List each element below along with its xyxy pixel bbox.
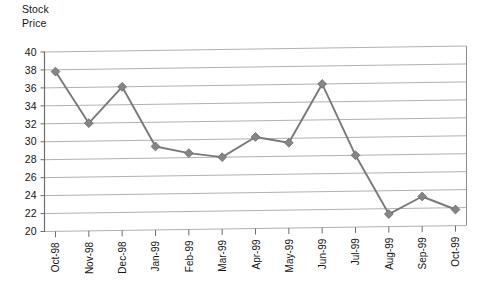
y-tick-label-28: 28: [25, 153, 37, 165]
y-tick-label-32: 32: [25, 118, 37, 130]
gridline-40: [45, 46, 467, 52]
x-tick-label-Nov-98: Nov-98: [84, 241, 95, 274]
gridline-36: [45, 82, 467, 88]
data-point-Apr-99: [251, 133, 260, 142]
data-point-May-99: [284, 138, 293, 147]
data-point-Aug-99: [384, 210, 393, 219]
data-point-Mar-99: [218, 153, 227, 162]
x-tick-label-Jun-99: Jun-99: [317, 238, 328, 269]
x-tick-label-Jul-99: Jul-99: [351, 238, 362, 266]
data-point-Sep-99: [418, 192, 427, 201]
x-axis-ticks-group: [56, 226, 456, 238]
gridline-26: [45, 172, 467, 178]
data-markers-group: [51, 67, 460, 218]
data-point-Feb-99: [184, 149, 193, 158]
gridline-38: [45, 64, 467, 70]
x-tick-label-Jan-99: Jan-99: [151, 240, 162, 271]
gridline-24: [45, 190, 467, 196]
y-tick-label-30: 30: [25, 135, 37, 147]
data-point-Jan-99: [151, 142, 160, 151]
gridline-22: [45, 208, 467, 214]
gridline-28: [45, 154, 467, 160]
y-tick-label-26: 26: [25, 171, 37, 183]
x-axis-labels-group: Oct-98Nov-98Dec-98Jan-99Feb-99Mar-99Apr-…: [51, 236, 462, 274]
x-tick-label-Apr-99: Apr-99: [251, 239, 262, 269]
x-tick-label-Oct-99: Oct-99: [451, 236, 462, 266]
y-tick-label-20: 20: [25, 225, 37, 237]
y-tick-label-36: 36: [25, 82, 37, 94]
data-point-Oct-99: [451, 205, 460, 214]
gridline-32: [45, 118, 467, 124]
x-tick-label-Dec-98: Dec-98: [117, 241, 128, 274]
y-axis-ticks-group: 4038363432302826242220: [25, 46, 45, 238]
x-tick-label-Mar-99: Mar-99: [217, 240, 228, 272]
stock-price-line-chart: Stock Price 4038363432302826242220 Oct-9…: [0, 0, 492, 287]
x-tick-label-Aug-99: Aug-99: [384, 237, 395, 270]
x-tick-label-Feb-99: Feb-99: [184, 240, 195, 272]
x-tick-label-Sep-99: Sep-99: [417, 237, 428, 270]
x-tick-label-Oct-98: Oct-98: [51, 242, 62, 272]
y-tick-label-40: 40: [25, 46, 37, 58]
data-point-Jun-99: [318, 80, 327, 89]
chart-plot-area: 4038363432302826242220 Oct-98Nov-98Dec-9…: [0, 0, 492, 287]
data-point-Jul-99: [351, 151, 360, 160]
x-tick-label-May-99: May-99: [284, 239, 295, 273]
y-tick-label-34: 34: [25, 100, 37, 112]
y-tick-label-22: 22: [25, 207, 37, 219]
y-tick-label-24: 24: [25, 189, 37, 201]
y-tick-label-38: 38: [25, 64, 37, 76]
